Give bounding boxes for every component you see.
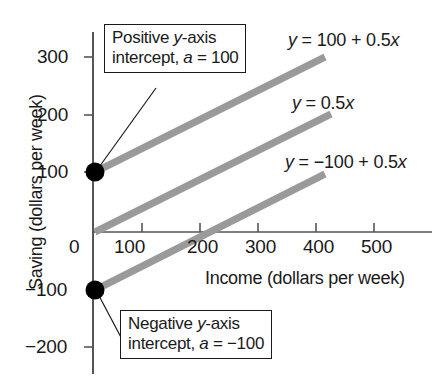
- callout-positive-line2-post: = 100: [193, 48, 239, 67]
- x-tick-label-100: 100: [114, 236, 145, 258]
- callout-negative-line1: Negative y-axis: [128, 314, 264, 334]
- series-label-1-body: = 100 + 0.5: [297, 30, 391, 50]
- callout-positive-line1-var: y: [174, 28, 182, 47]
- series-label-1-x: x: [391, 30, 400, 50]
- series-label-2-body: = 0.5: [301, 93, 345, 113]
- callout-negative-line2-post: = −100: [209, 334, 265, 353]
- series-label-zero-intercept: y = 0.5x: [292, 93, 354, 114]
- x-tick-label-200: 200: [187, 236, 218, 258]
- callout-positive-line2-var: a: [183, 48, 192, 67]
- series-label-2-x: x: [345, 93, 354, 113]
- y-tick-label-0: 0: [69, 236, 79, 258]
- callout-positive-line2-pre: intercept,: [112, 48, 183, 67]
- x-tick-label-300: 300: [245, 236, 276, 258]
- series-label-positive-intercept: y = 100 + 0.5x: [288, 30, 399, 51]
- callout-positive-line1-pre: Positive: [112, 28, 174, 47]
- series-label-3-x: x: [398, 152, 407, 172]
- callout-positive-line2: intercept, a = 100: [112, 48, 238, 68]
- intercept-marker-positive: [86, 163, 105, 182]
- callout-negative-line1-post: -axis: [205, 314, 239, 333]
- series-label-3-body: = −100 + 0.5: [294, 152, 398, 172]
- callout-positive-line1: Positive y-axis: [112, 28, 238, 48]
- intercept-marker-negative: [86, 281, 105, 300]
- series-line-zero-intercept: [95, 114, 331, 232]
- y-tick-label-300: 300: [37, 46, 68, 68]
- x-tick-label-500: 500: [361, 236, 392, 258]
- series-label-1-y: y: [288, 30, 297, 50]
- callout-positive-line1-post: -axis: [182, 28, 216, 47]
- callout-negative-line1-pre: Negative: [128, 314, 197, 333]
- x-tick-label-400: 400: [303, 236, 334, 258]
- callout-negative-line2-var: a: [199, 334, 208, 353]
- y-tick-label-neg200: −200: [25, 336, 67, 358]
- series-label-3-y: y: [285, 152, 294, 172]
- callout-negative-line2-pre: intercept,: [128, 334, 199, 353]
- x-tick-marks: [142, 223, 374, 232]
- savings-function-chart: 300 200 100 0 −100 −200 100 200 300 400 …: [0, 0, 443, 390]
- callout-negative-intercept: Negative y-axis intercept, a = −100: [120, 310, 272, 359]
- series-label-negative-intercept: y = −100 + 0.5x: [285, 152, 407, 173]
- y-axis-title: Saving (dollars per week): [26, 94, 47, 290]
- x-axis-title: Income (dollars per week): [205, 268, 405, 289]
- y-tick-marks: [84, 57, 93, 347]
- callout-negative-line2: intercept, a = −100: [128, 334, 264, 354]
- series-label-2-y: y: [292, 93, 301, 113]
- callout-positive-intercept: Positive y-axis intercept, a = 100: [104, 24, 246, 73]
